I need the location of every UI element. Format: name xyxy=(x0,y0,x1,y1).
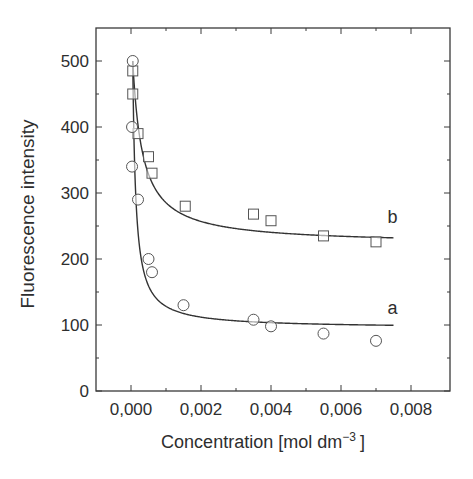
x-tick-label: 0,000 xyxy=(110,400,153,419)
circle-marker xyxy=(147,267,158,278)
square-marker xyxy=(249,209,259,219)
y-axis-label: Fluorescence intensity xyxy=(17,119,38,309)
x-tick-labels: 0,0000,0020,0040,0060,008 xyxy=(110,400,433,419)
x-tick-label: 0,004 xyxy=(250,400,293,419)
circle-marker xyxy=(266,321,277,332)
circle-marker xyxy=(143,254,154,265)
y-tick-label: 500 xyxy=(61,52,89,71)
fluorescence-chart: 0,0000,0020,0040,0060,008 01002003004005… xyxy=(0,0,473,479)
y-tick-label: 300 xyxy=(61,184,89,203)
circle-marker xyxy=(178,300,189,311)
y-tick-label: 0 xyxy=(80,382,89,401)
square-marker xyxy=(144,152,154,162)
y-tick-label: 100 xyxy=(61,316,89,335)
circle-marker xyxy=(127,122,138,133)
y-tick-label: 200 xyxy=(61,250,89,269)
y-tick-labels: 0100200300400500 xyxy=(61,52,89,401)
square-marker xyxy=(128,66,138,76)
circle-marker xyxy=(371,335,382,346)
series-labels: ba xyxy=(388,207,399,318)
circle-marker xyxy=(248,314,259,325)
circle-marker xyxy=(127,161,138,172)
fit-curve-a xyxy=(133,61,394,325)
fit-curves xyxy=(133,61,394,325)
circle-marker xyxy=(127,56,138,67)
x-tick-label: 0,008 xyxy=(390,400,433,419)
square-marker xyxy=(180,201,190,211)
fit-curve-b xyxy=(133,61,394,238)
x-axis-label-superscript: −3 xyxy=(342,430,356,444)
x-tick-label: 0,006 xyxy=(320,400,363,419)
square-marker xyxy=(319,231,329,241)
series-label-a: a xyxy=(388,298,399,318)
series-label-b: b xyxy=(388,207,398,227)
square-marker xyxy=(266,216,276,226)
circle-marker xyxy=(133,194,144,205)
x-tick-label: 0,002 xyxy=(180,400,223,419)
circle-marker xyxy=(318,328,329,339)
square-marker xyxy=(371,237,381,247)
x-axis-label-close: ] xyxy=(360,432,365,452)
y-tick-label: 400 xyxy=(61,118,89,137)
square-marker xyxy=(147,168,157,178)
x-axis-label: Concentration [mol dm−3] xyxy=(161,430,365,452)
square-marker xyxy=(128,89,138,99)
x-axis-label-main: Concentration [mol dm xyxy=(161,432,342,452)
